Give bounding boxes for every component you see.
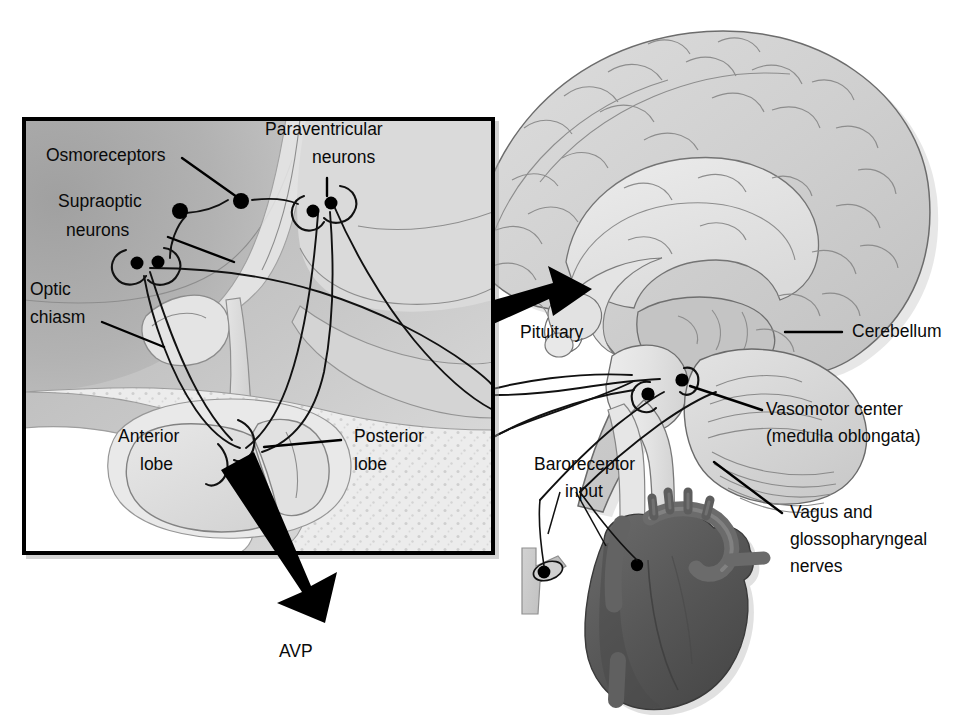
carotid-baroreceptor [538, 566, 551, 579]
paraventricular-soma-1 [307, 205, 320, 218]
label-pituitary: Pituitary [520, 322, 583, 342]
descending-aorta [730, 558, 764, 560]
label-vagus-nerves-line2: glossopharyngeal [790, 529, 927, 549]
label-vagus-nerves-line3: nerves [790, 556, 843, 576]
anatomical-figure: Osmoreceptors Supraoptic neurons Paraven… [0, 0, 974, 715]
inferior-vena-cava [616, 660, 618, 700]
label-anterior-lobe-line2: lobe [140, 454, 173, 474]
label-optic-chiasm-line1: Optic [30, 279, 71, 299]
label-paraventricular-neurons-line1: Paraventricular [265, 119, 383, 139]
label-posterior-lobe-line1: Posterior [354, 426, 424, 446]
label-baroreceptor-input-line1: Baroreceptor [534, 454, 635, 474]
label-vagus-nerves-line1: Vagus and [790, 502, 872, 522]
label-supraoptic-neurons-line1: Supraoptic [58, 191, 142, 211]
osmoreceptor-soma-1 [172, 203, 188, 219]
label-anterior-lobe-line1: Anterior [118, 426, 179, 446]
label-paraventricular-neurons-line2: neurons [312, 147, 375, 167]
supraoptic-soma-2 [152, 256, 165, 269]
label-avp: AVP [279, 641, 313, 661]
label-supraoptic-neurons-line2: neurons [66, 220, 129, 240]
vasomotor-soma-2 [675, 373, 688, 386]
label-vasomotor-center-line1: Vasomotor center [766, 399, 903, 419]
label-baroreceptor-input-line2: input [565, 481, 603, 501]
label-vasomotor-center-line2: (medulla oblongata) [766, 426, 921, 446]
supraoptic-soma-1 [131, 257, 144, 270]
paraventricular-soma-2 [325, 197, 338, 210]
label-cerebellum: Cerebellum [852, 321, 941, 341]
vasomotor-soma-1 [641, 387, 654, 400]
label-posterior-lobe-line2: lobe [354, 454, 387, 474]
label-osmoreceptors: Osmoreceptors [46, 145, 166, 165]
label-optic-chiasm-line2: chiasm [30, 307, 85, 327]
